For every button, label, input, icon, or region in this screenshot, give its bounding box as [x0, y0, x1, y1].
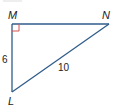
- triangle-diagram: M N L 6 10: [0, 0, 115, 108]
- vertex-label-L: L: [8, 95, 14, 107]
- side-length-ML: 6: [2, 54, 8, 65]
- vertex-label-M: M: [8, 9, 18, 21]
- side-LN: [12, 24, 109, 92]
- vertex-label-N: N: [102, 9, 110, 21]
- side-length-LN: 10: [58, 62, 70, 73]
- right-angle-marker: [12, 24, 19, 31]
